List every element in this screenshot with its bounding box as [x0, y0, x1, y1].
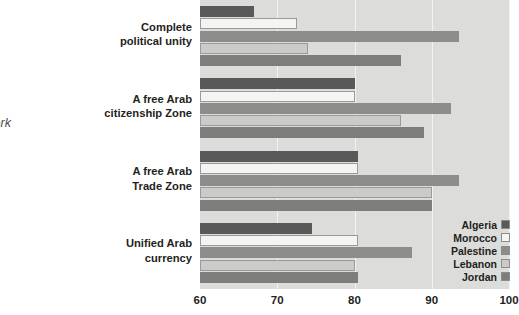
x-tick-label-90: 90 [425, 294, 438, 306]
legend-item-jordan: Jordan [418, 271, 510, 283]
bar-jordan [200, 127, 424, 138]
chart-legend: AlgeriaMoroccoPalestineLebanonJordan [418, 219, 510, 284]
bar-algeria [200, 223, 312, 234]
legend-swatch [501, 233, 510, 242]
legend-item-algeria: Algeria [418, 219, 510, 231]
category-label-line: currency [96, 251, 192, 266]
legend-label: Jordan [462, 271, 497, 283]
bar-morocco [200, 235, 358, 246]
legend-label: Morocco [453, 232, 497, 244]
category-label: Unified Arabcurrency [96, 236, 192, 265]
bar-algeria [200, 151, 358, 162]
bar-morocco [200, 18, 297, 29]
x-tick-label-60: 60 [194, 294, 207, 306]
caption-text: regional must work urgently. [0, 92, 64, 155]
bar-jordan [200, 200, 432, 211]
category-label-line: Complete [96, 20, 192, 35]
bar-group [200, 0, 509, 72]
bar-palestine [200, 31, 459, 42]
bar-palestine [200, 103, 451, 114]
bar-lebanon [200, 115, 401, 126]
bar-morocco [200, 91, 355, 102]
x-tick-label-80: 80 [348, 294, 361, 306]
legend-swatch [501, 259, 510, 268]
legend-label: Algeria [461, 219, 497, 231]
category-axis-labels: Completepolitical unityA free Arabcitize… [96, 0, 192, 289]
caption-line-3: urgently. [0, 134, 64, 155]
x-tick-label-100: 100 [499, 294, 518, 306]
category-label: A free ArabTrade Zone [96, 164, 192, 193]
bar-palestine [200, 175, 459, 186]
category-label-line: Unified Arab [96, 236, 192, 251]
x-tick-label-70: 70 [271, 294, 284, 306]
category-label: A free Arabcitizenship Zone [96, 92, 192, 121]
bar-jordan [200, 272, 358, 283]
legend-swatch [501, 272, 510, 281]
category-label-line: political unity [96, 34, 192, 49]
bar-group [200, 72, 509, 144]
legend-label: Lebanon [453, 258, 497, 270]
bar-jordan [200, 55, 401, 66]
category-label: Completepolitical unity [96, 20, 192, 49]
legend-item-palestine: Palestine [418, 245, 510, 257]
bar-lebanon [200, 43, 308, 54]
legend-swatch [501, 220, 510, 229]
caption-line-2: must work [0, 113, 64, 134]
bar-morocco [200, 163, 358, 174]
caption-line-1: regional [0, 92, 64, 113]
legend-label: Palestine [451, 245, 497, 257]
legend-swatch [501, 246, 510, 255]
bar-lebanon [200, 187, 432, 198]
legend-item-lebanon: Lebanon [418, 258, 510, 270]
bar-algeria [200, 78, 355, 89]
bar-algeria [200, 6, 254, 17]
legend-item-morocco: Morocco [418, 232, 510, 244]
category-label-line: A free Arab [96, 92, 192, 107]
x-axis: 60708090100 [200, 289, 509, 315]
category-label-line: A free Arab [96, 164, 192, 179]
category-label-line: Trade Zone [96, 179, 192, 194]
bar-group [200, 145, 509, 217]
bar-palestine [200, 247, 412, 258]
bar-lebanon [200, 260, 355, 271]
category-label-line: citizenship Zone [96, 106, 192, 121]
